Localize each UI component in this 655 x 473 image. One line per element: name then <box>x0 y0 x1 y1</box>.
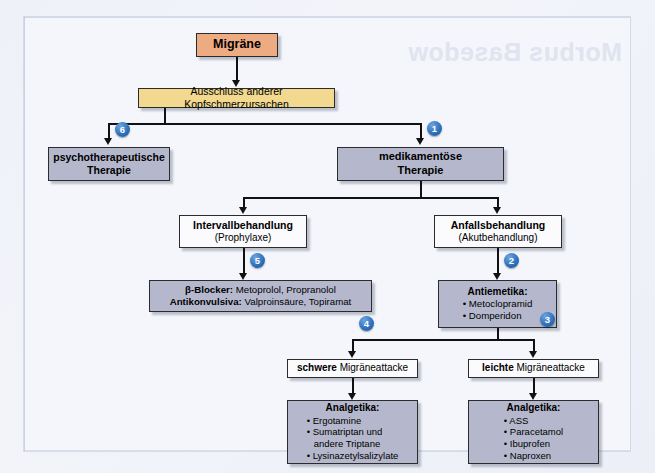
edge-exclusion-bus <box>108 123 421 125</box>
badge-6: 6 <box>115 122 130 137</box>
node-interval-line-2: (Prophylaxe) <box>215 232 272 245</box>
node-psycho-line-1: psychotherapeutische <box>53 151 164 164</box>
node-intervallbehandlung: Intervallbehandlung (Prophylaxe) <box>179 215 307 248</box>
arrowhead-schwer <box>348 351 356 358</box>
node-psychotherapeutische-therapie: psychotherapeutische Therapie <box>48 147 170 181</box>
node-analgetika-leicht: Analgetika: • ASS • Paracetamol • Ibupro… <box>468 400 599 464</box>
node-psycho-line-2: Therapie <box>87 164 131 177</box>
antiemetika-item-0: • Metoclopramid <box>463 298 533 310</box>
analgetika-leicht-item-3: • Naproxen <box>504 450 551 462</box>
analgetika-leicht-item-1: • Paracetamol <box>504 426 563 438</box>
arrowhead-leicht <box>529 351 537 358</box>
node-schwere-migraeneattacke: schwere Migräneattacke <box>287 359 418 378</box>
arrowhead-antiemetika <box>493 273 501 280</box>
migraene-therapy-flowchart: Migräne Ausschluss anderer Kopfschmerzur… <box>24 17 630 451</box>
edge-antiemetika-bus <box>352 339 534 341</box>
scanned-page-background: Morbus Basedow Migräne Ausschluss andere… <box>0 0 655 473</box>
edge-medik-stem <box>420 181 422 198</box>
prophylaxe-row-2: Antikonvulsiva: Valproinsäure, Topiramat <box>170 296 352 308</box>
arrowhead-anfall <box>493 207 501 214</box>
analgetika-schwer-item-3: • Lysinazetylsalizylate <box>307 450 399 462</box>
analgetika-leicht-item-0: • ASS <box>504 415 528 427</box>
arrowhead-analgetika-schwer <box>348 393 356 400</box>
analgetika-schwer-item-1: • Sumatriptan und <box>307 426 383 438</box>
node-ausschluss: Ausschluss anderer Kopfschmerzursachen <box>138 88 335 108</box>
antiemetika-items: • Metoclopramid • Domperidon <box>463 298 533 322</box>
analgetika-leicht-item-2: • Ibuprofen <box>504 438 550 450</box>
analgetika-leicht-heading: Analgetika: <box>507 402 561 415</box>
badge-1: 1 <box>427 121 442 136</box>
node-migraene-label: Migräne <box>213 37 261 53</box>
node-medik-line-1: medikamentöse <box>379 150 462 164</box>
schwere-label: schwere Migräneattacke <box>297 362 408 375</box>
analgetika-schwer-item-2: andere Triptane <box>307 438 381 450</box>
node-anfall-line-2: (Akutbehandlung) <box>459 232 538 245</box>
node-migraene: Migräne <box>196 33 278 57</box>
arrowhead-analgetika-leicht <box>529 393 537 400</box>
antiemetika-heading: Antiemetika: <box>467 286 527 299</box>
edge-interval-to-drugs <box>243 248 245 276</box>
antiemetika-item-1: • Domperidon <box>463 310 522 322</box>
edge-medik-bus <box>243 197 498 199</box>
badge-5: 5 <box>250 253 265 268</box>
node-medik-line-2: Therapie <box>398 164 444 178</box>
analgetika-schwer-heading: Analgetika: <box>326 402 380 415</box>
leichte-label: leichte Migräneattacke <box>482 362 585 375</box>
badge-3: 3 <box>540 312 555 327</box>
arrowhead-psycho <box>104 138 112 145</box>
arrowhead-prophyl-drugs <box>239 273 247 280</box>
badge-4: 4 <box>359 316 374 331</box>
node-ausschluss-label: Ausschluss anderer Kopfschmerzursachen <box>139 85 334 111</box>
edge-root-to-exclusion <box>236 57 238 82</box>
arrowhead-medik <box>416 138 424 145</box>
analgetika-leicht-items: • ASS • Paracetamol • Ibuprofen • Naprox… <box>504 415 563 463</box>
node-medikamentoese-therapie: medikamentöse Therapie <box>337 147 504 181</box>
edge-exclusion-stem <box>164 108 166 124</box>
node-leichte-migraeneattacke: leichte Migräneattacke <box>468 359 599 378</box>
arrowhead-interval <box>239 207 247 214</box>
node-anfallsbehandlung: Anfallsbehandlung (Akutbehandlung) <box>434 215 562 248</box>
edge-anfall-to-antiemetika <box>497 248 499 276</box>
prophylaxe-row-1: β-Blocker: Metoprolol, Propranolol <box>185 284 336 296</box>
node-prophylaxe-medikamente: β-Blocker: Metoprolol, Propranolol Antik… <box>149 280 372 312</box>
analgetika-schwer-items: • Ergotamine • Sumatriptan und andere Tr… <box>307 415 399 463</box>
node-analgetika-schwer: Analgetika: • Ergotamine • Sumatriptan u… <box>287 400 418 464</box>
node-anfall-line-1: Anfallsbehandlung <box>451 219 546 232</box>
node-interval-line-1: Intervallbehandlung <box>193 219 293 232</box>
badge-2: 2 <box>504 253 519 268</box>
analgetika-schwer-item-0: • Ergotamine <box>307 415 362 427</box>
